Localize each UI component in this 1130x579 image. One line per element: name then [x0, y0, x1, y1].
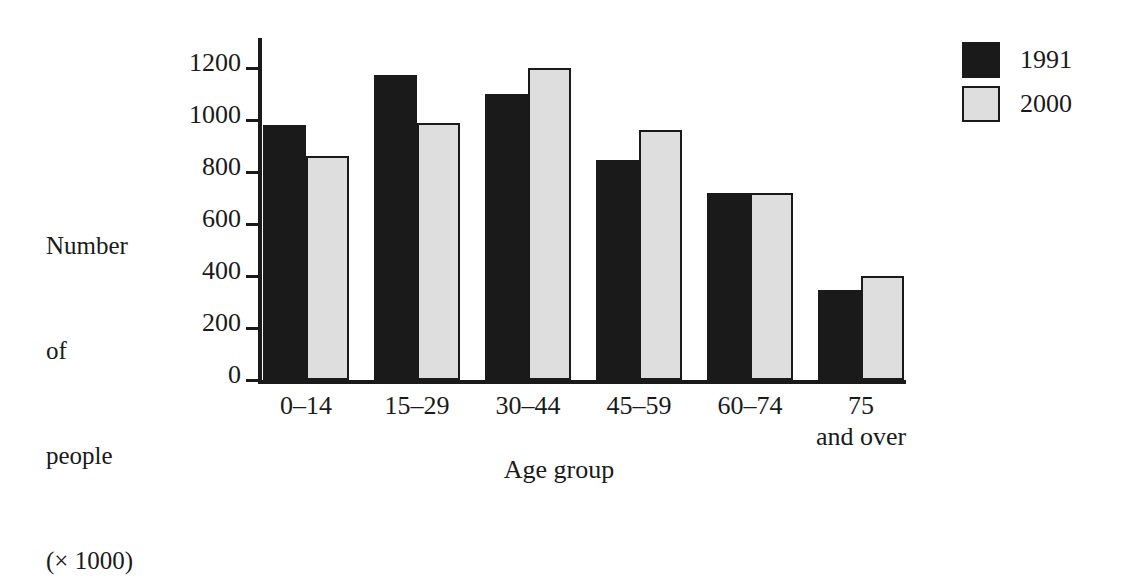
y-axis-line	[258, 38, 262, 384]
bar-2000-0–14	[306, 156, 349, 380]
y-tick-label: 200	[202, 310, 241, 336]
x-axis-title-text: Age group	[504, 455, 614, 484]
y-axis-title: Number of people (× 1000)	[46, 158, 196, 579]
y-tick-mark	[246, 119, 259, 122]
y-tick-label: 400	[202, 258, 241, 284]
bar-1991-0–14	[263, 125, 306, 380]
y-tick-mark	[246, 171, 259, 174]
legend-label-1991: 1991	[1020, 47, 1072, 73]
x-category-label-75-and-over: 75 and over	[791, 390, 931, 452]
y-tick-mark	[246, 327, 259, 330]
y-axis-title-line-4: (× 1000)	[46, 543, 196, 578]
x-axis-title: Age group	[0, 455, 1130, 485]
bar-1991-45–59	[596, 160, 639, 380]
legend-item-2000: 2000	[962, 84, 1112, 124]
y-axis-title-line-1: Number	[46, 228, 196, 263]
plot-area: 020040060080010001200 0–1415–2930–4445–5…	[258, 38, 906, 384]
bar-1991-30–44	[485, 94, 528, 380]
y-tick-mark	[246, 223, 259, 226]
y-tick-label: 800	[202, 154, 241, 180]
y-tick-mark	[246, 275, 259, 278]
bar-2000-60–74	[750, 193, 793, 380]
bar-2000-75-and-over	[861, 276, 904, 380]
bar-2000-30–44	[528, 68, 571, 380]
legend-label-2000: 2000	[1020, 91, 1072, 117]
y-tick-label: 600	[202, 206, 241, 232]
y-tick-mark	[246, 379, 259, 382]
y-tick-label: 0	[228, 362, 241, 388]
y-tick-label: 1200	[189, 50, 241, 76]
bar-1991-75-and-over	[818, 290, 861, 380]
bar-1991-60–74	[707, 193, 750, 380]
legend-swatch-2000-icon	[962, 86, 1000, 122]
y-tick-mark	[246, 67, 259, 70]
y-tick-label: 1000	[189, 102, 241, 128]
legend-item-1991: 1991	[962, 40, 1112, 80]
bar-1991-15–29	[374, 75, 417, 381]
legend-swatch-1991-icon	[962, 42, 1000, 78]
legend: 1991 2000	[962, 40, 1112, 128]
x-axis-line	[258, 380, 906, 384]
bar-2000-15–29	[417, 123, 460, 380]
bar-2000-45–59	[639, 130, 682, 380]
y-axis-title-line-2: of	[46, 333, 196, 368]
